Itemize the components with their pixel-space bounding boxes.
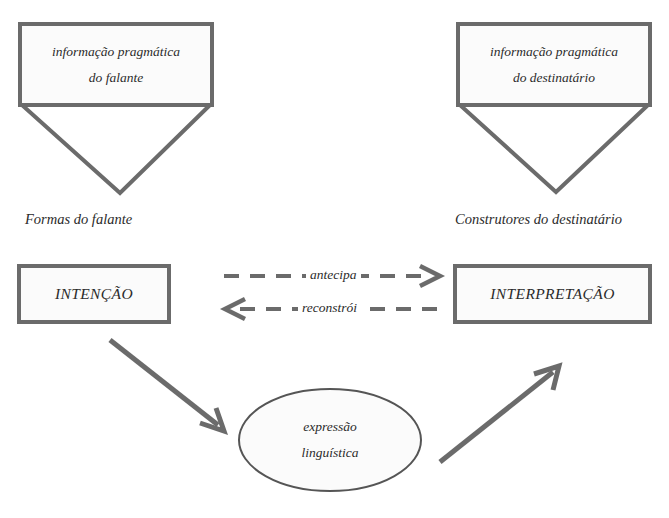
diagram-canvas: informação pragmática do falante informa… bbox=[0, 0, 669, 518]
anticipates-arrowhead-icon bbox=[420, 266, 440, 286]
expression-to-interpretation-arrow-icon bbox=[440, 366, 559, 462]
speaker-funnel-triangle-icon bbox=[22, 105, 210, 193]
speaker-forms-caption: Formas do falante bbox=[25, 211, 132, 228]
interpretation-box bbox=[455, 266, 650, 322]
speaker-pragmatic-info-shape bbox=[20, 24, 212, 193]
intention-to-expression-arrow-icon bbox=[110, 340, 224, 431]
anticipates-label: antecipa bbox=[306, 267, 361, 283]
addressee-pragmatic-info-shape bbox=[458, 24, 650, 192]
diagram-vector-layer bbox=[0, 0, 669, 518]
reconstructs-label: reconstrói bbox=[298, 300, 361, 316]
addressee-pragmatic-info-box bbox=[458, 24, 650, 105]
linguistic-expression-ellipse bbox=[239, 389, 421, 491]
addressee-funnel-triangle-icon bbox=[460, 105, 648, 192]
intention-box bbox=[19, 266, 169, 322]
speaker-pragmatic-info-box bbox=[20, 24, 212, 105]
intention-to-expression-line bbox=[110, 340, 218, 425]
expression-to-interpretation-line bbox=[440, 372, 553, 462]
addressee-constructors-caption: Construtores do destinatário bbox=[455, 211, 622, 228]
